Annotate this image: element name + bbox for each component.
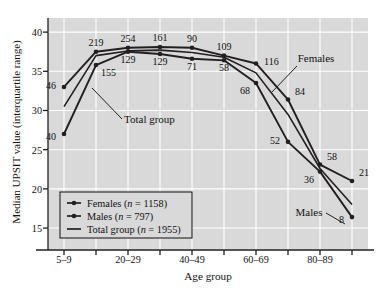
data-point-males bbox=[94, 63, 99, 68]
data-point-females bbox=[94, 49, 99, 54]
data-point-label: 129 bbox=[121, 54, 136, 65]
legend-item-label[interactable]: Total group (n = 1955) bbox=[87, 224, 181, 236]
data-point-females bbox=[158, 45, 163, 50]
data-point-males bbox=[286, 140, 291, 145]
legend-item-label[interactable]: Females (n = 1158) bbox=[87, 198, 167, 210]
data-point-females bbox=[190, 45, 195, 50]
data-point-label: 46 bbox=[46, 80, 56, 91]
data-point-males bbox=[62, 132, 67, 137]
data-point-label: 90 bbox=[187, 33, 197, 44]
data-point-label: 109 bbox=[217, 41, 232, 52]
data-point-females bbox=[222, 53, 227, 58]
x-axis-tick-label: 5–9 bbox=[56, 254, 71, 265]
data-point-females bbox=[318, 162, 323, 167]
data-point-males bbox=[318, 169, 323, 174]
x-axis-tick-label: 20–29 bbox=[115, 254, 140, 265]
legend-marker-dot bbox=[72, 201, 77, 206]
data-point-label: 155 bbox=[101, 67, 116, 78]
data-point-label: 116 bbox=[264, 56, 279, 67]
data-point-females bbox=[62, 85, 67, 90]
data-point-label: 68 bbox=[240, 85, 250, 96]
annotation-label-females: Females bbox=[298, 52, 335, 64]
x-axis-title: Age group bbox=[48, 270, 368, 282]
y-axis-tick-label: 40 bbox=[24, 27, 42, 38]
data-point-males bbox=[254, 81, 259, 86]
data-point-label: 58 bbox=[327, 151, 337, 162]
legend-item-label[interactable]: Males (n = 797) bbox=[87, 211, 153, 223]
data-point-females bbox=[286, 97, 291, 102]
figure-caption bbox=[22, 286, 372, 294]
annotation-label-males: Males bbox=[296, 206, 323, 218]
data-point-label: 71 bbox=[187, 61, 197, 72]
y-axis-tick-label: 30 bbox=[24, 105, 42, 116]
data-point-label: 40 bbox=[46, 131, 56, 142]
x-axis-tick-label: 80–89 bbox=[307, 254, 332, 265]
data-point-label: 58 bbox=[219, 62, 229, 73]
data-point-label: 129 bbox=[153, 56, 168, 67]
y-axis-tick-label: 20 bbox=[24, 183, 42, 194]
legend-marker-dot bbox=[72, 214, 77, 219]
data-point-males bbox=[350, 215, 355, 220]
y-axis-title: Median UPSIT value (interquartile range) bbox=[10, 12, 22, 252]
annotation-label-total-group: Total group bbox=[124, 113, 175, 125]
line-chart-plot: 4621925416190109116845821401551291297158… bbox=[0, 0, 379, 294]
data-point-females bbox=[350, 179, 355, 184]
x-axis-tick-label: 40–49 bbox=[179, 254, 204, 265]
figure-container: Median UPSIT value (interquartile range)… bbox=[0, 0, 379, 294]
data-point-label: 219 bbox=[89, 37, 104, 48]
data-point-label: 52 bbox=[270, 135, 280, 146]
data-point-females bbox=[254, 61, 259, 66]
data-point-label: 21 bbox=[359, 167, 369, 178]
data-point-label: 84 bbox=[295, 86, 305, 97]
data-point-label: 254 bbox=[121, 33, 136, 44]
x-axis-tick-label: 60–69 bbox=[243, 254, 268, 265]
data-point-label: 36 bbox=[304, 174, 314, 185]
y-axis-tick-label: 15 bbox=[24, 223, 42, 234]
data-point-label: 161 bbox=[153, 32, 168, 43]
y-axis-tick-label: 35 bbox=[24, 66, 42, 77]
y-axis-tick-label: 25 bbox=[24, 144, 42, 155]
data-point-females bbox=[126, 45, 131, 50]
